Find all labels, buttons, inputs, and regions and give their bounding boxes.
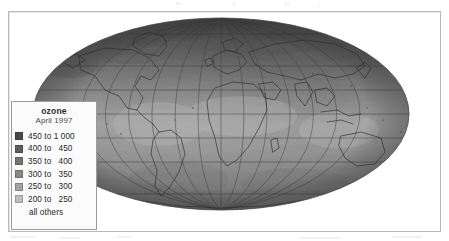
legend-item[interactable]: 450 to 1 000 xyxy=(12,130,96,143)
scan-noise-top xyxy=(0,0,449,10)
legend-item[interactable]: 200 to 250 xyxy=(12,193,96,206)
legend-item[interactable]: 400 to 450 xyxy=(12,143,96,156)
legend-swatch xyxy=(15,195,23,203)
map-legend[interactable]: ozone April 1997 450 to 1 000 400 to 450… xyxy=(11,101,97,230)
scan-noise-bottom xyxy=(0,234,449,241)
legend-swatch xyxy=(15,132,23,140)
legend-item[interactable]: 350 to 400 xyxy=(12,155,96,168)
legend-item[interactable]: 300 to 350 xyxy=(12,168,96,181)
legend-item-label: 200 to 250 xyxy=(28,195,72,204)
legend-item-label: all others xyxy=(29,208,63,217)
legend-entries: 450 to 1 000 400 to 450 350 to 400 300 t… xyxy=(12,130,96,219)
legend-subtitle: April 1997 xyxy=(12,116,96,126)
legend-item-label: 450 to 1 000 xyxy=(28,132,75,141)
legend-title: ozone xyxy=(12,106,96,116)
legend-item-all-others[interactable]: all others xyxy=(12,206,96,219)
legend-item-label: 300 to 350 xyxy=(28,170,72,179)
legend-item-label: 250 to 300 xyxy=(28,182,72,191)
legend-swatch xyxy=(15,170,23,178)
legend-item-label: 350 to 400 xyxy=(28,157,72,166)
figure-frame: ozone April 1997 450 to 1 000 400 to 450… xyxy=(8,11,441,232)
legend-item[interactable]: 250 to 300 xyxy=(12,180,96,193)
legend-swatch xyxy=(15,145,23,153)
legend-swatch xyxy=(15,157,23,165)
legend-item-label: 400 to 450 xyxy=(28,144,72,153)
legend-swatch xyxy=(15,183,23,191)
